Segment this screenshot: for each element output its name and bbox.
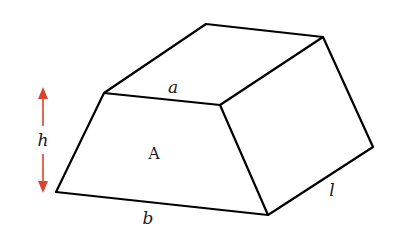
front-face <box>56 93 268 215</box>
face-area-label: A <box>147 144 160 163</box>
prism-diagram: h a A b l <box>0 0 396 240</box>
top-edge-label: a <box>168 77 178 97</box>
height-label: h <box>38 130 49 150</box>
top-face-edges <box>104 24 323 105</box>
length-label: l <box>329 180 334 200</box>
bottom-edge-label: b <box>143 208 154 228</box>
